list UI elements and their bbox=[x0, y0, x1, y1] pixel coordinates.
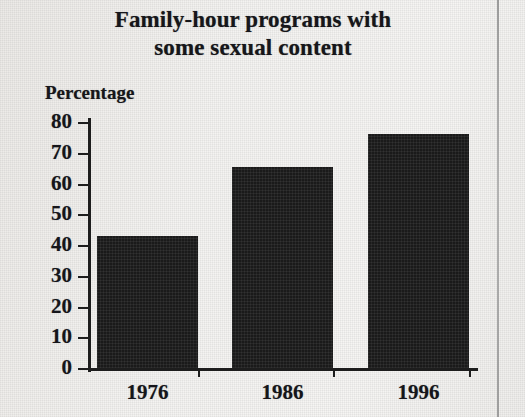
x-tick-3 bbox=[469, 368, 471, 377]
x-tick-2 bbox=[333, 368, 335, 377]
x-label-1996: 1996 bbox=[368, 380, 469, 405]
x-tick-1 bbox=[198, 368, 200, 377]
y-tick-label-80: 80 bbox=[26, 110, 72, 132]
y-tick-80: 80 bbox=[78, 122, 89, 124]
x-axis-line bbox=[88, 368, 478, 371]
y-tick-label-60: 60 bbox=[26, 172, 72, 194]
page-column-rule bbox=[497, 0, 499, 417]
y-tick-70: 70 bbox=[78, 153, 89, 155]
bar-1996 bbox=[368, 134, 469, 368]
y-tick-0: 0 bbox=[78, 368, 89, 370]
bar-1986 bbox=[232, 167, 333, 368]
chart-title-line-2: some sexual content bbox=[18, 34, 488, 62]
y-tick-50: 50 bbox=[78, 214, 89, 216]
x-label-1976: 1976 bbox=[97, 380, 198, 405]
plot-area: 80 70 60 50 40 30 20 10 0 1976 1986 1996 bbox=[88, 122, 480, 368]
y-tick-label-30: 30 bbox=[26, 264, 72, 286]
y-tick-label-50: 50 bbox=[26, 202, 72, 224]
chart-title: Family-hour programs with some sexual co… bbox=[18, 6, 488, 62]
y-tick-label-10: 10 bbox=[26, 325, 72, 347]
bar-1976 bbox=[97, 236, 198, 368]
chart-title-line-1: Family-hour programs with bbox=[18, 6, 488, 34]
y-tick-30: 30 bbox=[78, 276, 89, 278]
y-tick-40: 40 bbox=[78, 245, 89, 247]
y-tick-label-70: 70 bbox=[26, 141, 72, 163]
y-tick-label-40: 40 bbox=[26, 233, 72, 255]
y-tick-60: 60 bbox=[78, 184, 89, 186]
x-label-1986: 1986 bbox=[232, 380, 333, 405]
y-tick-label-0: 0 bbox=[26, 356, 72, 378]
y-axis-title: Percentage bbox=[45, 82, 134, 104]
y-tick-20: 20 bbox=[78, 307, 89, 309]
y-tick-10: 10 bbox=[78, 337, 89, 339]
y-tick-label-20: 20 bbox=[26, 295, 72, 317]
